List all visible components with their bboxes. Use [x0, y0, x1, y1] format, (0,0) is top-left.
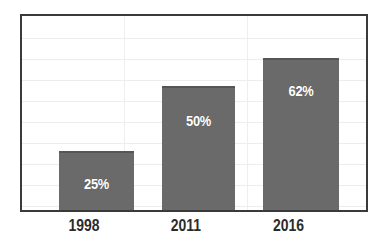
bar-2016[interactable]: 62% [263, 58, 339, 210]
bar-2011[interactable]: 50% [162, 86, 235, 210]
bar-value-label: 25% [64, 175, 129, 192]
bar-chart: 25% 50% 62% 1998 2011 2016 [0, 0, 385, 246]
vertical-gridline [247, 16, 248, 210]
horizontal-gridline [22, 38, 366, 39]
category-label-2011: 2011 [155, 216, 217, 236]
category-label-1998: 1998 [52, 216, 116, 236]
bar-1998[interactable]: 25% [59, 151, 134, 210]
bar-value-label: 50% [167, 112, 230, 129]
bar-value-label: 62% [268, 82, 333, 99]
plot-area: 25% 50% 62% [20, 14, 368, 212]
category-label-2016: 2016 [256, 216, 321, 236]
